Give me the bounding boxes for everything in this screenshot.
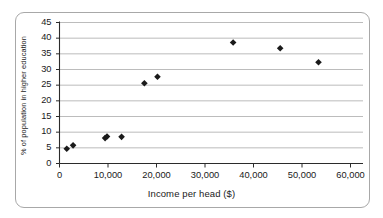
data-point [118, 134, 125, 141]
y-tick-label: 20 [26, 95, 52, 105]
data-point [277, 45, 284, 52]
data-point [63, 145, 70, 152]
scatter-chart: Income per head ($) % of population in h… [0, 0, 383, 218]
y-tick-label: 15 [26, 111, 52, 121]
data-point [230, 39, 237, 46]
y-tick-label: 30 [26, 64, 52, 74]
y-tick-label: 5 [26, 142, 52, 152]
y-tick-label: 10 [26, 126, 52, 136]
plot-canvas [0, 0, 383, 218]
data-point [154, 73, 161, 80]
y-tick-label: 40 [26, 32, 52, 42]
x-axis-title: Income per head ($) [0, 188, 383, 199]
y-tick-label: 25 [26, 79, 52, 89]
y-tick-label: 0 [26, 158, 52, 168]
y-tick-label: 45 [26, 17, 52, 27]
data-point [315, 59, 322, 66]
y-tick-label: 35 [26, 48, 52, 58]
x-tick-label: 60,000 [321, 170, 381, 180]
